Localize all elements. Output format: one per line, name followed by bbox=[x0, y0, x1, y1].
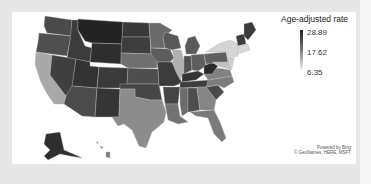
map-credits: Powered by Bing © GeoNames, HERE, MSFT bbox=[294, 145, 351, 155]
state-nd[interactable] bbox=[122, 22, 150, 37]
state-ar[interactable] bbox=[163, 87, 180, 104]
state-ks[interactable] bbox=[127, 68, 159, 84]
state-ne[interactable] bbox=[121, 53, 157, 68]
legend-min-label: 6.35 bbox=[307, 68, 323, 77]
state-or[interactable] bbox=[36, 33, 71, 56]
state-ms[interactable] bbox=[180, 88, 188, 116]
state-me[interactable] bbox=[244, 22, 256, 40]
state-ak[interactable] bbox=[44, 132, 82, 160]
state-ma-ct-ri[interactable] bbox=[238, 44, 250, 54]
legend-max-label: 28.89 bbox=[307, 28, 327, 37]
state-wi[interactable] bbox=[163, 32, 181, 50]
state-wa[interactable] bbox=[44, 16, 72, 36]
state-ut[interactable] bbox=[72, 59, 99, 88]
legend-colorbar bbox=[300, 30, 303, 70]
legend-title: Age-adjusted rate bbox=[281, 14, 348, 24]
state-in[interactable] bbox=[184, 56, 192, 74]
credits-attribution: © GeoNames, HERE, MSFT bbox=[294, 150, 351, 155]
legend-mid-label: 17.62 bbox=[307, 48, 327, 57]
state-mt[interactable] bbox=[78, 19, 123, 44]
legend: Age-adjusted rate 28.89 17.62 6.35 bbox=[281, 14, 361, 76]
state-fl[interactable] bbox=[190, 110, 226, 142]
state-sd[interactable] bbox=[121, 37, 151, 54]
state-nm[interactable] bbox=[95, 88, 120, 117]
state-hi[interactable] bbox=[96, 142, 110, 158]
state-mi[interactable] bbox=[185, 36, 200, 54]
state-wy[interactable] bbox=[90, 43, 122, 64]
state-oh[interactable] bbox=[191, 54, 206, 71]
